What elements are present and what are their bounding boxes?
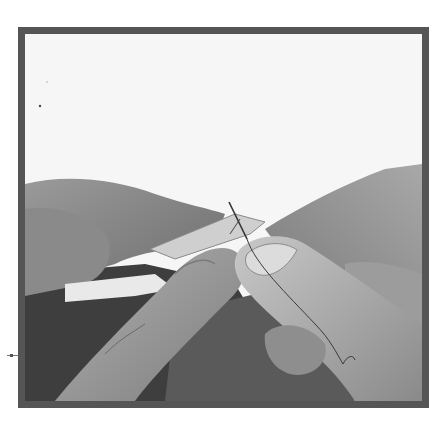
photo-frame: Close-up of two hands holding a folded f…: [18, 27, 429, 408]
leader-dot: [10, 354, 13, 357]
sewing-photo: Close-up of two hands holding a folded f…: [25, 34, 422, 401]
hands-illustration: [25, 34, 422, 401]
